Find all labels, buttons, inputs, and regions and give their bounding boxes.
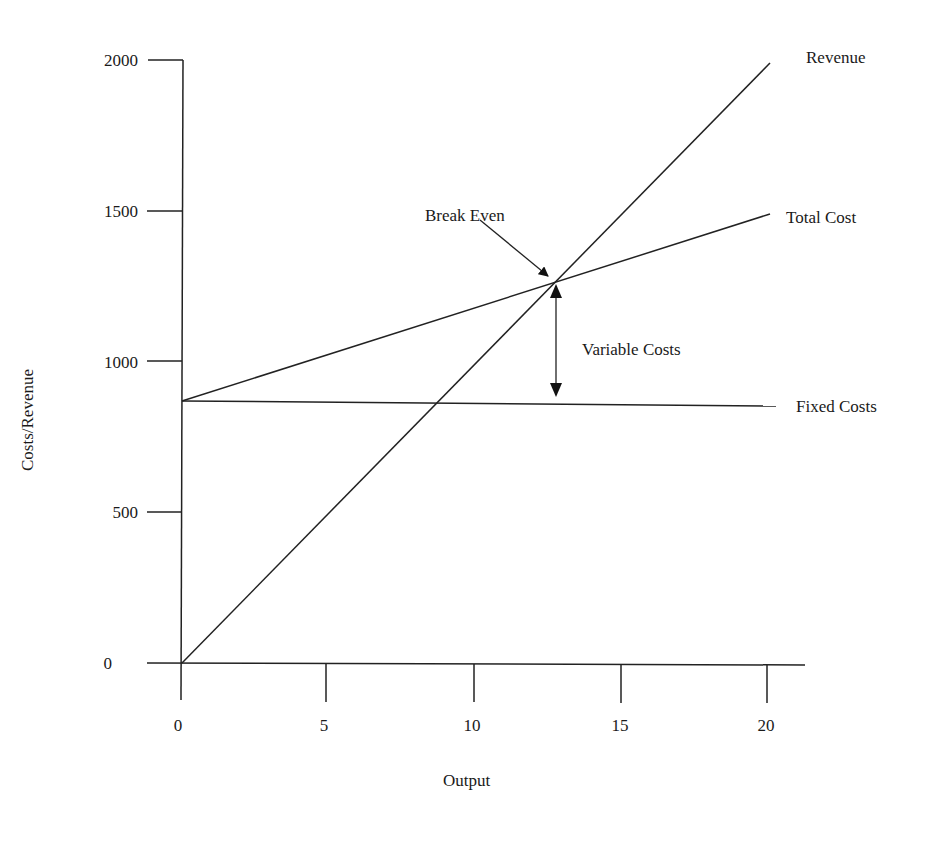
total-cost-label: Total Cost bbox=[786, 209, 856, 226]
revenue-line bbox=[182, 63, 770, 663]
x-tick-label: 20 bbox=[746, 717, 786, 734]
x-tick-label: 10 bbox=[452, 717, 492, 734]
revenue-label: Revenue bbox=[806, 49, 865, 66]
y-tick-label: 500 bbox=[78, 504, 138, 521]
x-tick-label: 5 bbox=[304, 717, 344, 734]
total-cost-line bbox=[182, 214, 770, 401]
break-even-label: Break Even bbox=[425, 207, 505, 224]
y-axis-title: Costs/Revenue bbox=[18, 369, 38, 471]
arrowhead-down-icon bbox=[550, 383, 562, 397]
x-tick-label: 15 bbox=[600, 717, 640, 734]
fixed-costs-label: Fixed Costs bbox=[796, 398, 877, 415]
y-tick-label: 1000 bbox=[78, 354, 138, 371]
y-tick-label: 2000 bbox=[78, 52, 138, 69]
break-even-chart bbox=[0, 0, 939, 841]
x-tick-label: 0 bbox=[158, 717, 198, 734]
x-axis bbox=[147, 663, 805, 665]
y-axis bbox=[181, 60, 183, 700]
fixed-costs-line bbox=[182, 401, 776, 406]
break-even-arrow bbox=[480, 220, 548, 276]
y-tick-label: 0 bbox=[52, 655, 112, 672]
y-tick-label: 1500 bbox=[78, 203, 138, 220]
x-axis-title: Output bbox=[443, 772, 490, 789]
variable-costs-label: Variable Costs bbox=[582, 341, 681, 358]
